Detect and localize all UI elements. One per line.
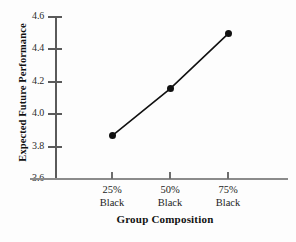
y-tick-label-4.4: 4.4 bbox=[0, 43, 44, 53]
y-axis-tick-4.4 bbox=[48, 48, 62, 50]
x-axis-tick-25 bbox=[111, 172, 113, 179]
data-point-2 bbox=[167, 85, 174, 92]
y-tick-label-3.8: 3.8 bbox=[0, 141, 44, 151]
x-tick-label-50-line2: Black bbox=[138, 197, 202, 210]
x-tick-label-25-black: 25% Black bbox=[80, 184, 144, 209]
y-axis-title: Expected Future Performance bbox=[17, 8, 28, 178]
y-tick-label-4.0: 4.0 bbox=[0, 108, 44, 118]
y-axis-tick-4.2 bbox=[48, 81, 62, 83]
y-axis-tick-3.8 bbox=[48, 146, 62, 148]
y-tick-label-4.2: 4.2 bbox=[0, 76, 44, 86]
x-tick-label-50-black: 50% Black bbox=[138, 184, 202, 209]
y-axis-tick-4.6 bbox=[48, 16, 62, 18]
x-axis-title: Group Composition bbox=[40, 213, 290, 225]
x-tick-label-75-black: 75% Black bbox=[196, 184, 260, 209]
x-tick-label-50-line1: 50% bbox=[138, 184, 202, 197]
y-axis-line bbox=[55, 16, 57, 179]
x-tick-label-75-line1: 75% bbox=[196, 184, 260, 197]
y-axis-tick-4.0 bbox=[48, 113, 62, 115]
data-point-1 bbox=[109, 132, 116, 139]
x-axis-tick-75 bbox=[227, 172, 229, 179]
x-tick-label-25-line1: 25% bbox=[80, 184, 144, 197]
chart-figure: Expected Future Performance 4.6 4.4 4.2 … bbox=[0, 0, 296, 242]
x-tick-label-25-line2: Black bbox=[80, 197, 144, 210]
x-tick-label-75-line2: Black bbox=[196, 197, 260, 210]
data-point-3 bbox=[225, 30, 232, 37]
x-axis-tick-50 bbox=[169, 172, 171, 179]
x-axis-line bbox=[30, 178, 288, 180]
y-tick-label-4.6: 4.6 bbox=[0, 11, 44, 21]
